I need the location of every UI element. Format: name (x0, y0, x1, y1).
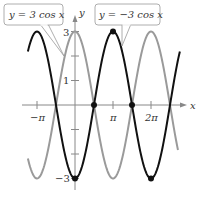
y-axis-label: y (78, 7, 85, 18)
callout-right-text: y = −3 cos x (98, 9, 163, 20)
callout-left-text: y = 3 cos x (8, 9, 65, 20)
tick-label-1: 1 (63, 75, 69, 86)
tick-label-neg3: −3 (55, 173, 70, 184)
callout-left: y = 3 cos x (4, 4, 65, 56)
tick-label-pi: π (109, 112, 117, 123)
tick-label-neg-pi: −π (30, 112, 45, 123)
x-axis-arrow-icon (180, 103, 187, 108)
y-axis-arrow-icon (73, 15, 78, 22)
x-axis-label: x (190, 100, 196, 111)
callout-right: y = −3 cos x (95, 4, 163, 46)
tick-label-3: 3 (63, 27, 69, 38)
tick-label-2pi: 2π (144, 112, 158, 123)
cosine-graph: x y −π π 2π 3 1 −3 y = 3 cos x (0, 0, 197, 198)
